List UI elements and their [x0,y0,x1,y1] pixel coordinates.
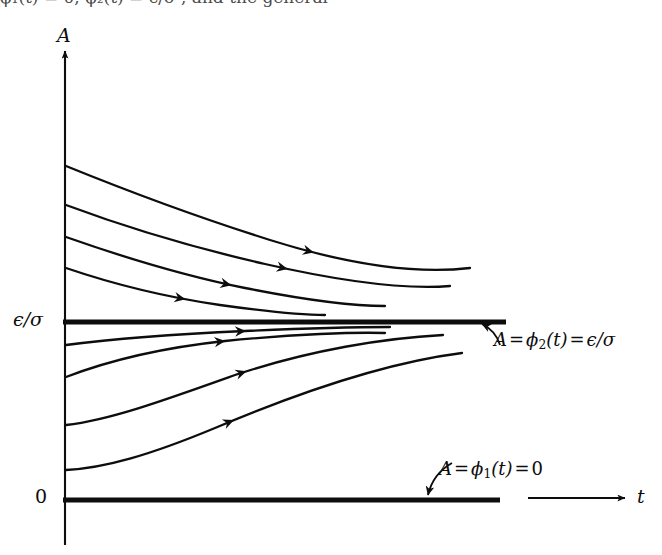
annotation-lower-eq1: = [452,458,471,479]
annotation-lower-phi-subscript: 1 [483,467,491,481]
trajectory-curve [66,268,325,315]
y-tick-label-epsilon-over-sigma: ϵ/σ [13,310,43,329]
annotation-upper-phi: ϕ [526,329,538,350]
annotation-upper-arg: (t) [546,329,567,350]
y-axis-label: A [57,26,71,45]
annotation-lower-arg: (t) [491,458,512,479]
annotation-upper-rhs: ϵ/σ [587,329,615,350]
annotation-lower-lhs: A [439,458,452,479]
trajectory-curve [66,166,470,270]
annotation-upper-lhs: A [494,329,507,350]
phase-portrait-figure: ϕ₁(t) = 0, ϕ₂(t) = ϵ/σ , and the general [0,0,662,555]
trajectory-curve [66,237,385,306]
annotation-lower-rhs: 0 [532,458,543,479]
annotation-upper-eq1: = [507,329,526,350]
phase-portrait-canvas [0,0,662,555]
y-tick-label-zero: 0 [35,487,47,506]
trajectory-curves-group [66,166,470,470]
annotation-upper-eq2: = [567,329,586,350]
flow-direction-arrowhead [302,245,315,258]
annotation-upper-phi-subscript: 2 [538,338,546,352]
flow-direction-arrowhead [234,366,248,379]
trajectory-curve [66,205,450,287]
annotation-lower-eq2: = [512,458,531,479]
x-axis-label: t [637,487,645,506]
annotation-upper-equilibrium: A=ϕ2(t)=ϵ/σ [494,331,615,351]
annotation-lower-equilibrium: A=ϕ1(t)=0 [439,460,543,480]
trajectory-curve [66,327,390,345]
flow-arrowheads-group [174,245,316,429]
flow-direction-arrowhead [222,415,236,429]
annotation-lower-phi: ϕ [471,458,483,479]
